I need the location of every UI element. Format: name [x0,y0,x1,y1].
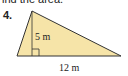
base-label: 12 m [59,62,80,73]
triangle-figure: 5 m 12 m [0,0,128,76]
height-label: 5 m [35,31,51,42]
